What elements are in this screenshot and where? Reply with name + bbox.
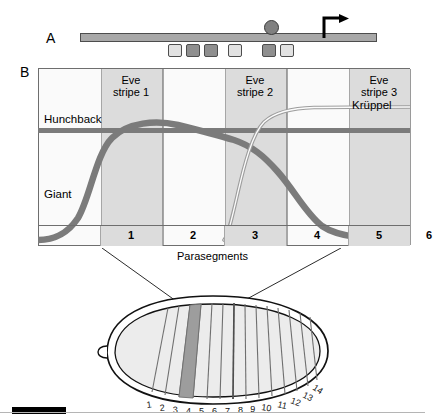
embryo-diagram: 1 2 3 4 5 6 7 8 9 10 11 12 13 14: [95, 248, 350, 413]
binding-site-6: [280, 44, 294, 57]
binding-site-2: [186, 44, 200, 57]
binding-site-4: [228, 44, 242, 57]
hunchback-level-line: [38, 128, 410, 133]
embryo-number-11: 11: [277, 399, 288, 411]
leader-line-right: [234, 248, 341, 306]
transcription-start-arrow-icon: [322, 14, 352, 40]
embryo-number-1: 1: [146, 399, 152, 410]
panel-b-letter: B: [20, 64, 29, 80]
hunchback-label: Hunchback: [44, 113, 102, 125]
giant-label: Giant: [44, 188, 72, 200]
parasegment-number-4: 4: [286, 229, 348, 241]
panel-a-letter: A: [46, 30, 55, 46]
bottom-rule: [0, 412, 425, 413]
embryo-number-12: 12: [289, 395, 302, 408]
binding-site-3: [204, 44, 218, 57]
parasegment-number-2: 2: [162, 229, 224, 241]
parasegment-number-3: 3: [224, 229, 286, 241]
kruppel-label: Krüppel: [352, 99, 392, 111]
embryo-number-13: 13: [301, 390, 314, 403]
parasegment-number-5: 5: [348, 229, 410, 241]
gene-expression-curves: [38, 68, 410, 246]
binding-site-1: [168, 44, 182, 57]
leader-line-left: [102, 248, 183, 306]
parasegment-number-6: 6: [410, 229, 437, 241]
transcription-factor-icon: [264, 20, 279, 35]
embryo-anterior-notch: [98, 346, 107, 358]
parasegment-number-row: 1 2 3 4 5 6: [38, 225, 410, 246]
hunchback-curve: [38, 123, 410, 240]
parasegment-number-1: 1: [100, 229, 162, 241]
binding-site-5: [262, 44, 276, 57]
embryo-stripe-7-dark: [233, 303, 234, 399]
